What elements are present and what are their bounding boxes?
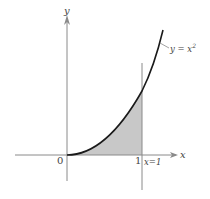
curve-label-leader — [160, 43, 169, 48]
area-under-curve-diagram: y x 0 1 x=1 y = x2 — [0, 0, 210, 199]
y-axis-label: y — [63, 5, 70, 16]
x-tick-label: 1 — [135, 155, 141, 166]
curve-label: y = x2 — [169, 42, 196, 54]
shaded-area — [67, 91, 142, 155]
curve-label-base: y = x — [169, 44, 192, 54]
x-axis-label: x — [180, 149, 186, 160]
origin-label: 0 — [57, 155, 63, 166]
curve-label-exponent: 2 — [191, 42, 196, 49]
vertical-line-label: x=1 — [144, 157, 161, 167]
